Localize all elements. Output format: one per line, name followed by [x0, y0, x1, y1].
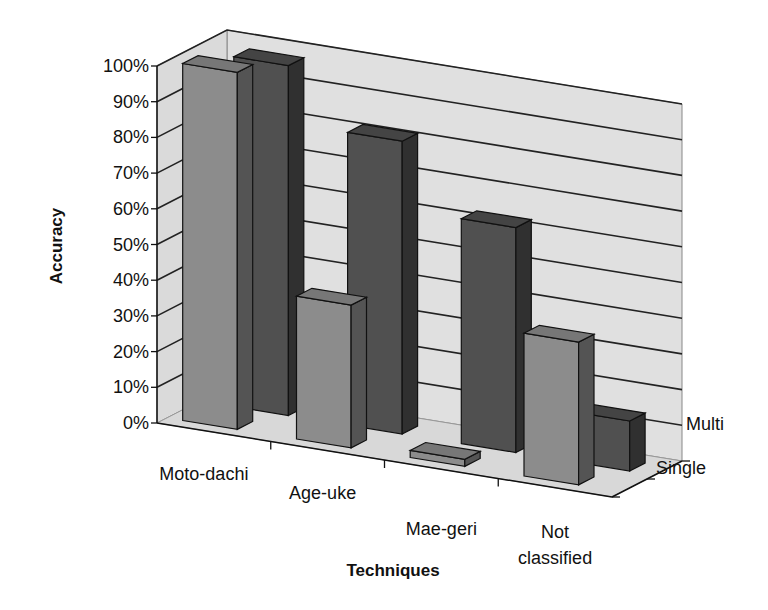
y-tick-label: 90% [113, 92, 149, 112]
bar-multi-2 [461, 211, 531, 453]
y-axis-title: Accuracy [47, 207, 66, 284]
y-tick-label: 80% [113, 127, 149, 147]
bar-side-face [630, 413, 645, 471]
bar-front-face [461, 219, 516, 453]
y-tick-label: 40% [113, 270, 149, 290]
bar-front-face [183, 64, 238, 430]
bar-single-3 [524, 325, 594, 485]
y-tick-label: 20% [113, 342, 149, 362]
bar-side-face [402, 133, 417, 434]
category-label: Age-uke [289, 483, 356, 503]
bar-single-0 [183, 56, 253, 430]
bar-side-face [237, 65, 252, 430]
bar-single-1 [297, 288, 367, 448]
y-tick-label: 10% [113, 377, 149, 397]
x-axis-title: Techniques [346, 561, 439, 580]
series-label-single: Single [656, 458, 706, 478]
bar-side-face [351, 297, 366, 448]
bar-side-face [579, 334, 594, 485]
series-label-multi: Multi [686, 414, 724, 434]
y-tick-label: 70% [113, 163, 149, 183]
y-tick-label: 60% [113, 199, 149, 219]
category-label: Not [541, 522, 569, 542]
y-tick-label: 0% [123, 413, 149, 433]
y-axis-tick-labels: 0%10%20%30%40%50%60%70%80%90%100% [103, 56, 149, 433]
bar-front-face [524, 333, 579, 485]
y-tick-label: 30% [113, 306, 149, 326]
y-tick-label: 100% [103, 56, 149, 76]
bar-front-face [297, 296, 352, 448]
category-label: Moto-dachi [159, 464, 248, 484]
chart-3d-bar: 0%10%20%30%40%50%60%70%80%90%100% Moto-d… [0, 0, 768, 610]
category-label: Mae-geri [406, 519, 477, 539]
y-tick-label: 50% [113, 235, 149, 255]
category-label: classified [518, 548, 592, 568]
